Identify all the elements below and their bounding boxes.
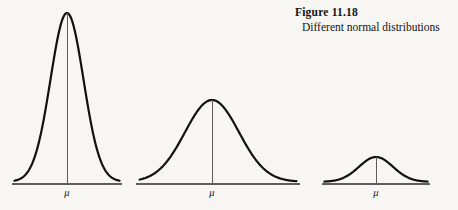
figure-container: Figure 11.18 Different normal distributi… [0,0,458,210]
mean-label: μ [208,187,214,198]
distribution-group-3: μ [322,157,430,198]
distribution-group-2: μ [136,100,300,198]
mean-label: μ [63,187,69,198]
normal-curve [140,100,297,181]
normal-distributions-plot: μμμ [0,0,458,210]
mean-label: μ [372,187,378,198]
curves-layer: μμμ [12,13,430,198]
distribution-group-1: μ [12,13,122,198]
